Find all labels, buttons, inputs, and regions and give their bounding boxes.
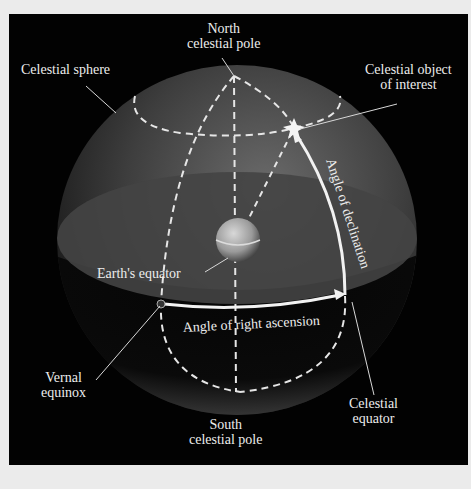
earth-equator-label: Earth's equator (97, 266, 181, 281)
north-pole-label: North celestial pole (187, 21, 260, 51)
celestial-equator-label: Celestial equator (349, 396, 398, 426)
south-pole-label: South celestial pole (189, 417, 262, 447)
celestial-sphere-label: Celestial sphere (21, 62, 110, 77)
diagram-frame: Angle of declination Angle of right asce… (9, 14, 468, 465)
earth (216, 218, 260, 262)
vernal-equinox-label: Vernal equinox (41, 370, 86, 400)
vernal-equinox-point (157, 300, 165, 308)
object-label: Celestial object of interest (365, 62, 452, 92)
